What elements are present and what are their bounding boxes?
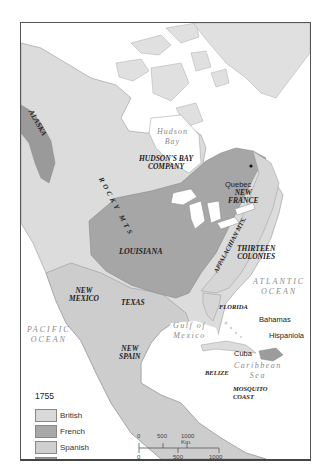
label-thirteen-colonies: THIRTEEN COLONIES — [237, 245, 275, 261]
legend-item-french: French — [35, 423, 89, 439]
label-caribbean-sea: Caribbean Sea — [234, 361, 282, 381]
legend-item-british: British — [35, 407, 89, 423]
legend-label: British — [60, 411, 82, 420]
label-louisiana: LOUISIANA — [119, 248, 163, 256]
label-gulf-of-mexico: Gulf of Mexico — [173, 321, 206, 341]
label-pacific-ocean: PACIFIC OCEAN — [27, 325, 71, 345]
legend-title: 1755 — [35, 391, 89, 401]
label-hudson-bay: Hudson Bay — [157, 127, 188, 147]
bahamas-islands — [225, 322, 243, 339]
label-new-france: NEW FRANCE — [228, 189, 258, 205]
label-belize: BELIZE — [205, 369, 228, 377]
label-new-spain: NEW SPAIN — [119, 345, 141, 361]
legend-item-russian: Russian — [35, 455, 89, 461]
hispaniola — [259, 348, 283, 361]
quebec-marker — [249, 164, 252, 167]
scale-km-1000: 1000 Km. — [181, 433, 194, 445]
legend-label: French — [60, 427, 85, 436]
legend-label: Spanish — [60, 443, 89, 452]
legend-swatch-french — [35, 425, 57, 438]
legend-label: Russian — [60, 459, 89, 462]
legend-item-spanish: Spanish — [35, 439, 89, 455]
label-mosquito-coast: MOSQUITO COAST — [233, 385, 268, 401]
scale-mi-0: 0 — [137, 454, 140, 460]
map-legend: 1755 British French Spanish Russian — [35, 391, 89, 461]
label-hispaniola: Hispaniola — [269, 331, 304, 340]
label-new-mexico: NEW MEXICO — [69, 287, 99, 303]
legend-swatch-british — [35, 409, 57, 422]
map-frame: ALASKA Hudson Bay HUDSON'S BAY COMPANY Q… — [20, 22, 311, 461]
greenland — [193, 23, 310, 98]
scale-km-500: 500 — [157, 433, 167, 439]
label-atlantic-ocean: ATLANTIC OCEAN — [253, 277, 305, 297]
legend-swatch-spanish — [35, 441, 57, 454]
label-hudsons-bay-company: HUDSON'S BAY COMPANY — [139, 155, 193, 171]
scale-km-0: 0 — [137, 433, 140, 439]
label-texas: TEXAS — [121, 299, 145, 307]
label-cuba: Cuba — [234, 349, 252, 358]
label-bahamas: Bahamas — [259, 315, 291, 324]
legend-swatch-russian — [35, 457, 57, 462]
scale-mi-500: 500 — [173, 454, 183, 460]
label-florida: FLORIDA — [219, 303, 248, 311]
scale-mi-1000: 1000 Mi. — [209, 454, 222, 461]
